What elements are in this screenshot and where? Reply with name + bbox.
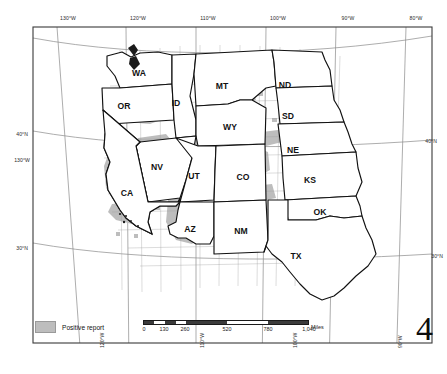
lon-label-top-0: 130°W	[60, 15, 76, 21]
lon-label-top-1: 120°W	[130, 15, 146, 21]
state-label-ok: OK	[314, 207, 328, 217]
state-label-ne: NE	[287, 145, 299, 155]
lat-label-left-40n: 40°N	[16, 131, 28, 137]
state-label-nm: NM	[234, 226, 247, 236]
legend: Positive report	[35, 321, 104, 333]
scale-tick-1: 130	[160, 326, 169, 332]
state-label-ut: UT	[188, 171, 200, 181]
lon-label-top-2: 110°W	[200, 15, 216, 21]
state-label-co: CO	[237, 172, 250, 182]
lon-label-top-3: 100°W	[270, 15, 286, 21]
state-label-sd: SD	[282, 111, 294, 121]
scale-tick-0: 0	[143, 326, 146, 332]
state-labels: WA OR ID MT ND SD WY NE NV UT CO KS CA A…	[118, 68, 328, 261]
state-label-ks: KS	[304, 175, 316, 185]
lat-label-right-40n: 40°N	[425, 138, 437, 144]
figure-number: 4	[416, 312, 433, 346]
lon-label-top-5: 80°W	[410, 15, 423, 21]
lat-label-left-130w: 130°W	[14, 157, 30, 163]
state-label-ca: CA	[121, 188, 133, 198]
state-label-id: ID	[172, 98, 181, 108]
lon-label-bottom-0: 120°W	[99, 333, 105, 348]
lat-label-left-30n: 30°N	[16, 245, 28, 251]
scale-tick-2: 260	[181, 326, 190, 332]
scale-tick-4: 780	[264, 326, 273, 332]
lon-label-top-4: 90°W	[342, 15, 355, 21]
scale-tick-3: 520	[223, 326, 232, 332]
state-label-nv: NV	[151, 162, 163, 172]
scale-units-label: Miles	[311, 324, 324, 330]
lon-label-bottom-1: 110°W	[199, 333, 205, 348]
map-figure: 130°W 120°W 110°W 100°W 90°W 80°W 40°N 1…	[0, 0, 447, 374]
state-label-tx: TX	[291, 251, 302, 261]
lon-label-bottom-2: 100°W	[292, 333, 298, 348]
state-label-wy: WY	[223, 122, 237, 132]
legend-label-positive-report: Positive report	[62, 324, 104, 331]
legend-swatch-positive-report	[35, 321, 56, 333]
state-label-or: OR	[118, 101, 132, 111]
state-label-wa: WA	[132, 68, 146, 78]
lat-label-right-30n: 30°N	[431, 253, 443, 259]
lon-label-bottom-3: 90°W	[397, 335, 403, 348]
state-label-az: AZ	[184, 224, 195, 234]
state-label-mt: MT	[216, 81, 229, 91]
state-label-nd: ND	[279, 80, 291, 90]
map-labels: 130°W 120°W 110°W 100°W 90°W 80°W 40°N 1…	[0, 0, 447, 374]
